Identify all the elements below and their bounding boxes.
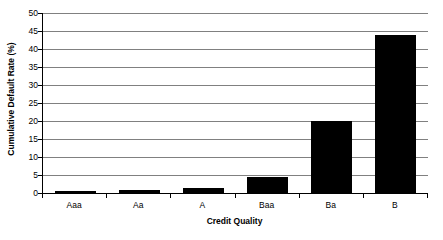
bar bbox=[311, 121, 352, 193]
bar bbox=[119, 190, 160, 193]
x-axis-tick-mark bbox=[106, 194, 107, 198]
x-axis-tick-label: Aa bbox=[106, 200, 170, 210]
y-axis-tick-mark bbox=[38, 13, 42, 14]
y-axis-tick-mark bbox=[38, 175, 42, 176]
y-axis-tick-label: 40 bbox=[16, 45, 38, 54]
x-axis-tick-mark bbox=[363, 194, 364, 198]
bar bbox=[183, 188, 224, 193]
bar bbox=[375, 35, 416, 193]
y-axis-tick-mark bbox=[38, 103, 42, 104]
y-axis-tick-label: 0 bbox=[16, 189, 38, 198]
x-axis-tick-label: B bbox=[363, 200, 427, 210]
y-axis-tick-label: 35 bbox=[16, 63, 38, 72]
x-axis-tick-mark bbox=[42, 194, 43, 198]
bar-chart: Cumulative Default Rate (%) 051015202530… bbox=[0, 0, 443, 240]
y-axis-tick-labels: 05101520253035404550 bbox=[16, 6, 38, 200]
y-axis-tick-mark bbox=[38, 139, 42, 140]
x-axis-title: Credit Quality bbox=[42, 216, 427, 227]
y-axis-tick-label: 15 bbox=[16, 135, 38, 144]
x-axis-tick-mark bbox=[299, 194, 300, 198]
bars-layer bbox=[43, 13, 428, 193]
x-axis-tick-label: A bbox=[170, 200, 234, 210]
y-axis-tick-mark bbox=[38, 121, 42, 122]
y-axis-tick-mark bbox=[38, 31, 42, 32]
y-axis-tick-mark bbox=[38, 67, 42, 68]
y-axis-tick-label: 25 bbox=[16, 99, 38, 108]
x-axis-tick-mark bbox=[235, 194, 236, 198]
x-axis-tick-label: Ba bbox=[299, 200, 363, 210]
y-axis-tick-mark bbox=[38, 157, 42, 158]
bar bbox=[55, 191, 96, 193]
y-axis-tick-mark bbox=[38, 85, 42, 86]
y-axis-tick-label: 30 bbox=[16, 81, 38, 90]
y-axis-tick-label: 5 bbox=[16, 171, 38, 180]
plot-area bbox=[42, 13, 428, 194]
y-axis-tick-label: 50 bbox=[16, 9, 38, 18]
y-axis-tick-mark bbox=[38, 49, 42, 50]
bar bbox=[247, 177, 288, 193]
y-axis-tick-label: 45 bbox=[16, 27, 38, 36]
y-axis-tick-label: 10 bbox=[16, 153, 38, 162]
x-axis-tick-label: Aaa bbox=[42, 200, 106, 210]
x-axis-tick-mark bbox=[170, 194, 171, 198]
x-axis-tick-label: Baa bbox=[235, 200, 299, 210]
y-axis-tick-label: 20 bbox=[16, 117, 38, 126]
x-axis-tick-mark bbox=[427, 194, 428, 198]
y-axis-tick-mark bbox=[38, 193, 42, 194]
